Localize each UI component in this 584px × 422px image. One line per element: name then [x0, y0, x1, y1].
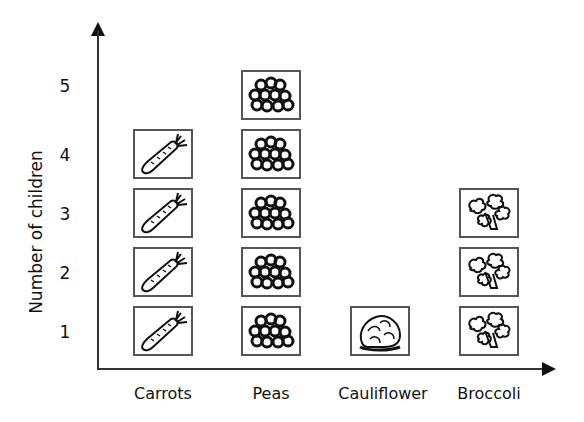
carrot-icon	[133, 129, 193, 179]
y-tick: 2	[58, 263, 72, 283]
peas-icon	[241, 247, 301, 297]
carrot-icon	[133, 247, 193, 297]
peas-icon	[241, 188, 301, 238]
peas-icon	[241, 129, 301, 179]
x-tick-peas: Peas	[216, 384, 326, 403]
y-tick: 3	[58, 204, 72, 224]
cauliflower-icon	[350, 306, 410, 356]
y-tick: 4	[58, 145, 72, 165]
y-tick: 5	[58, 76, 72, 96]
y-tick: 1	[58, 322, 72, 342]
peas-icon	[241, 306, 301, 356]
x-tick-cauliflower: Cauliflower	[328, 384, 438, 403]
carrot-icon	[133, 188, 193, 238]
y-axis	[97, 30, 99, 370]
broccoli-icon	[459, 188, 519, 238]
peas-icon	[241, 70, 301, 120]
x-tick-carrots: Carrots	[108, 384, 218, 403]
x-tick-broccoli: Broccoli	[434, 384, 544, 403]
y-axis-label: Number of children	[26, 150, 46, 314]
broccoli-icon	[459, 306, 519, 356]
x-axis-arrow-icon	[542, 362, 556, 376]
carrot-icon	[133, 306, 193, 356]
broccoli-icon	[459, 247, 519, 297]
x-axis	[97, 368, 545, 370]
